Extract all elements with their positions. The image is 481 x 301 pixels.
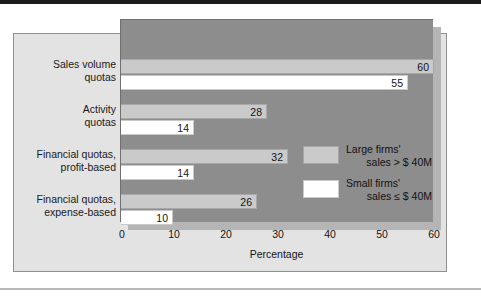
chart-legend: Large firms'sales > $ 40M Small firms'sa… bbox=[303, 144, 431, 212]
x-tick-30: 30 bbox=[263, 228, 293, 240]
category-label-sales-volume-quotas: Sales volumequotas bbox=[0, 58, 116, 83]
x-tick-10: 10 bbox=[159, 228, 189, 240]
x-tick-40: 40 bbox=[315, 228, 345, 240]
legend-swatch-small-firms-icon bbox=[303, 180, 339, 198]
category-label-line1: Sales volume bbox=[53, 58, 116, 70]
bar-large-sales-volume-quotas[interactable]: 60 bbox=[121, 59, 434, 74]
page-bottom-rule bbox=[0, 288, 481, 290]
page-top-rule bbox=[0, 0, 481, 4]
bar-value-label: 26 bbox=[240, 195, 252, 210]
bar-value-label: 10 bbox=[156, 211, 168, 226]
bar-value-label: 55 bbox=[391, 76, 403, 91]
bar-small-financial-quotas-profit-based[interactable]: 14 bbox=[121, 165, 194, 180]
bar-value-label: 14 bbox=[177, 166, 189, 181]
x-tick-60: 60 bbox=[419, 228, 449, 240]
legend-label-line1: Large firms' bbox=[346, 143, 401, 155]
bar-value-label: 60 bbox=[417, 60, 429, 75]
x-tick-0: 0 bbox=[107, 228, 137, 240]
x-tick-20: 20 bbox=[211, 228, 241, 240]
category-label-line2: quotas bbox=[84, 71, 116, 83]
bar-large-financial-quotas-profit-based[interactable]: 32 bbox=[121, 149, 288, 164]
x-axis-tick-labels: 0 10 20 30 40 50 60 bbox=[0, 228, 481, 244]
bar-small-financial-quotas-expense-based[interactable]: 10 bbox=[121, 210, 173, 225]
legend-swatch-large-firms-icon bbox=[303, 146, 339, 164]
bar-small-activity-quotas[interactable]: 14 bbox=[121, 120, 194, 135]
bar-value-label: 14 bbox=[177, 121, 189, 136]
legend-item-small-firms[interactable]: Small firms'sales ≤ $ 40M bbox=[303, 178, 431, 212]
x-tick-50: 50 bbox=[367, 228, 397, 240]
bar-value-label: 32 bbox=[271, 150, 283, 165]
legend-label-small-firms: Small firms'sales ≤ $ 40M bbox=[346, 177, 432, 202]
bar-small-sales-volume-quotas[interactable]: 55 bbox=[121, 75, 408, 90]
x-axis-title: Percentage bbox=[120, 248, 433, 260]
category-label-financial-quotas-expense-based: Financial quotas,expense-based bbox=[0, 193, 116, 218]
legend-item-large-firms[interactable]: Large firms'sales > $ 40M bbox=[303, 144, 431, 178]
category-label-line2: profit-based bbox=[61, 161, 116, 173]
category-label-line2: quotas bbox=[84, 116, 116, 128]
category-label-line1: Financial quotas, bbox=[37, 148, 116, 160]
category-label-financial-quotas-profit-based: Financial quotas,profit-based bbox=[0, 148, 116, 173]
bar-value-label: 28 bbox=[250, 105, 262, 120]
category-label-activity-quotas: Activityquotas bbox=[0, 103, 116, 128]
category-label-line1: Financial quotas, bbox=[37, 193, 116, 205]
category-label-line1: Activity bbox=[83, 103, 116, 115]
category-label-line2: expense-based bbox=[44, 206, 116, 218]
plot-area: 60 55 28 14 32 14 26 10 Large firms'sale… bbox=[120, 19, 433, 222]
legend-label-line2: sales ≤ $ 40M bbox=[346, 190, 432, 203]
bar-large-activity-quotas[interactable]: 28 bbox=[121, 104, 267, 119]
legend-label-line2: sales > $ 40M bbox=[346, 156, 432, 169]
legend-label-line1: Small firms' bbox=[346, 177, 400, 189]
legend-label-large-firms: Large firms'sales > $ 40M bbox=[346, 143, 432, 168]
bar-large-financial-quotas-expense-based[interactable]: 26 bbox=[121, 194, 257, 209]
